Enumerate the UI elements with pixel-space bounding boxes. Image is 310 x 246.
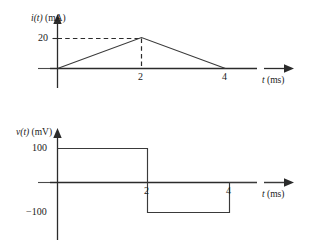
bottom-xtick-label-2: 2 xyxy=(144,186,149,196)
bottom-x-axis-title-unit: (ms) xyxy=(267,189,284,199)
top-x-axis-title: t (ms) xyxy=(262,76,284,86)
bottom-y-value-positive-100: 100 xyxy=(32,143,47,153)
top-y-axis-title-unit: (mA) xyxy=(45,13,66,23)
bottom-y-value-negative-100: −100 xyxy=(26,207,47,217)
bottom-y-axis-title: v(t) (mV) xyxy=(16,128,52,138)
top-xtick-label-4: 4 xyxy=(222,72,227,82)
cropped-caption-strip xyxy=(0,237,310,246)
top-y-value-20: 20 xyxy=(38,33,48,43)
top-plot-current xyxy=(38,14,294,88)
bottom-y-axis-arrowhead xyxy=(53,128,61,138)
bottom-y-axis-title-unit: (mV) xyxy=(32,127,53,137)
bottom-y-axis-title-symbol: v(t) xyxy=(16,127,29,137)
bottom-xtick-label-4: 4 xyxy=(226,186,231,196)
top-y-axis-title: i(t) (mA) xyxy=(31,14,66,24)
bottom-x-axis-title: t (ms) xyxy=(262,190,284,200)
bottom-x-axis-arrowhead xyxy=(284,178,294,186)
top-x-axis-title-unit: (ms) xyxy=(267,75,284,85)
top-y-axis-title-symbol: i(t) xyxy=(31,13,43,23)
bottom-waveform-square xyxy=(58,149,258,213)
top-x-axis-arrowhead xyxy=(284,64,294,72)
top-xtick-label-2: 2 xyxy=(138,72,143,82)
figure-root: i(t) (mA) 20 2 4 t (ms) v(t) (mV) 100 −1… xyxy=(0,0,310,246)
bottom-plot-voltage xyxy=(38,128,294,240)
